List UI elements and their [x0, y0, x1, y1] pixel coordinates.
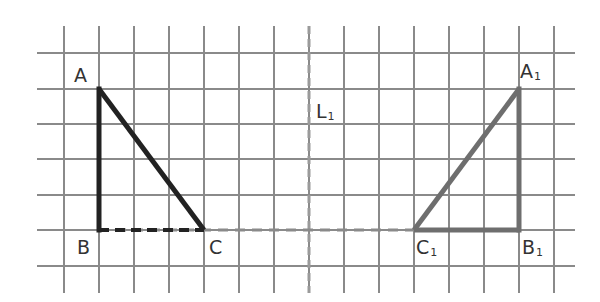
label-a1-main: A — [520, 60, 533, 82]
label-a-text: A — [74, 64, 87, 86]
vertex-label-a1: A1 — [520, 62, 541, 82]
label-c1-sub: 1 — [430, 246, 437, 259]
mirror-line-label: L1 — [316, 102, 335, 122]
vertex-label-c: C — [209, 238, 222, 257]
label-b1-main: B — [522, 236, 535, 258]
vertex-label-a: A — [74, 66, 87, 85]
label-c1-main: C — [416, 236, 429, 258]
vertex-label-c1: C1 — [416, 238, 437, 258]
label-b-text: B — [77, 236, 90, 258]
label-l1-sub: 1 — [328, 110, 335, 123]
diagram-canvas: A B C A1 B1 C1 L1 — [0, 0, 600, 302]
vertex-label-b: B — [77, 238, 90, 257]
label-b1-sub: 1 — [536, 246, 543, 259]
grid-lines — [37, 26, 575, 293]
vertex-label-b1: B1 — [522, 238, 543, 258]
label-a1-sub: 1 — [534, 70, 541, 83]
label-c-text: C — [209, 236, 222, 258]
label-l1-main: L — [316, 100, 327, 122]
